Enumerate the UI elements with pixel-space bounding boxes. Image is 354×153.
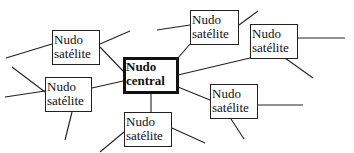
connector-line	[178, 58, 250, 75]
satellite-label-line2: satélite	[126, 129, 171, 143]
connector-line	[6, 44, 52, 58]
connector-line	[178, 87, 210, 100]
connector-line	[178, 44, 190, 58]
connector-line	[5, 91, 45, 97]
satellite-node-right: Nudo satélite	[210, 84, 258, 119]
satellite-label-line1: Nudo	[212, 87, 257, 101]
satellite-node-left: Nudo satélite	[45, 77, 92, 112]
satellite-node-top-left: Nudo satélite	[52, 30, 100, 65]
satellite-label-line2: satélite	[47, 94, 91, 108]
central-node: Nudo central	[123, 57, 179, 94]
connector-line	[231, 119, 244, 139]
connector-line	[100, 31, 130, 44]
connector-line	[239, 11, 258, 25]
satellite-label-line1: Nudo	[54, 33, 99, 47]
satellite-node-bottom-center: Nudo satélite	[124, 112, 172, 147]
satellite-label-line1: Nudo	[126, 115, 171, 129]
satellite-label-line2: satélite	[54, 47, 99, 61]
satellite-label-line2: satélite	[252, 41, 297, 55]
connector-line	[157, 25, 190, 30]
connector-line	[12, 67, 45, 92]
central-node-label-line1: Nudo	[126, 60, 176, 74]
satellite-label-line1: Nudo	[192, 13, 238, 27]
satellite-label-line2: satélite	[212, 101, 257, 115]
connector-line	[285, 58, 313, 78]
connector-line	[65, 112, 72, 140]
satellite-node-top-right: Nudo satélite	[250, 24, 298, 59]
satellite-label-line1: Nudo	[47, 80, 91, 94]
connector-line	[100, 47, 123, 71]
connector-line	[172, 128, 205, 143]
satellite-node-top-center: Nudo satélite	[190, 10, 239, 45]
concept-map-diagram: Nudo central Nudo satélite Nudo satélite…	[0, 0, 354, 153]
satellite-label-line2: satélite	[192, 27, 238, 41]
connector-line	[100, 132, 124, 152]
satellite-label-line1: Nudo	[252, 27, 297, 41]
connector-line	[92, 81, 123, 88]
central-node-label-line2: central	[126, 74, 176, 88]
